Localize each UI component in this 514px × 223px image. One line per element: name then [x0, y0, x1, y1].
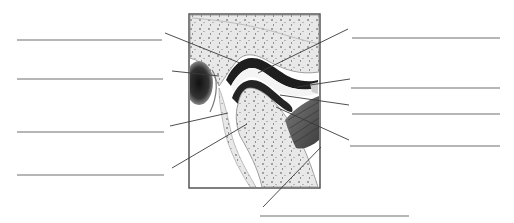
diagram-canvas: [0, 0, 514, 223]
joint-illustration: [185, 15, 319, 187]
tmj-diagram: [0, 0, 514, 223]
label-r2: [297, 79, 500, 88]
